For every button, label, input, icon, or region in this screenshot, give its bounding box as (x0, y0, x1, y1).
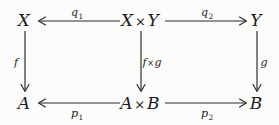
arrow-label-q2: q2 (201, 7, 213, 18)
arrow-label-f: f (14, 57, 18, 68)
arrow-label-p2-base: p (201, 107, 208, 120)
arrow-f (21, 31, 29, 92)
arrow-p1 (39, 99, 121, 107)
node-Y: Y (250, 12, 261, 29)
times-symbol: × (133, 13, 147, 28)
arrow-label-p2-subscript: 2 (208, 112, 213, 121)
node-Y-label: Y (250, 10, 261, 30)
node-A: A (18, 95, 30, 112)
arrow-label-p1-base: p (71, 107, 78, 120)
node-A-times-B-right: B (147, 93, 160, 113)
arrow-label-p1-subscript: 1 (78, 112, 83, 121)
times-symbol: × (133, 96, 147, 111)
arrow-label-fxg: f×g (142, 57, 161, 68)
arrow-label-q1: q1 (71, 7, 83, 18)
node-B-label: B (250, 93, 263, 113)
arrow-label-q2-subscript: 2 (208, 11, 213, 20)
node-X-times-Y-left: X (121, 10, 133, 30)
node-X-label: X (18, 10, 30, 30)
arrow-label-p1: p1 (71, 108, 83, 119)
node-X-times-Y: X×Y (121, 12, 159, 29)
node-A-label: A (18, 93, 30, 113)
arrow-label-g-base: g (260, 56, 267, 69)
node-B: B (250, 95, 263, 112)
times-symbol: × (146, 58, 154, 68)
node-A-times-B: A×B (120, 95, 159, 112)
node-X: X (18, 12, 30, 29)
arrow-label-f-base: f (14, 56, 18, 69)
node-A-times-B-left: A (120, 93, 132, 113)
arrow-label-q1-base: q (71, 6, 78, 19)
arrow-label-q2-base: q (201, 6, 208, 19)
arrow-label-fxg-right: g (155, 56, 162, 69)
commutative-diagram: X X×Y Y A A×B B q1 q2 p1 p2 f f×g g (0, 0, 279, 125)
arrow-label-p2: p2 (201, 108, 213, 119)
arrow-label-g: g (260, 57, 267, 68)
arrow-label-q1-subscript: 1 (78, 11, 83, 20)
node-X-times-Y-right: Y (147, 10, 158, 30)
